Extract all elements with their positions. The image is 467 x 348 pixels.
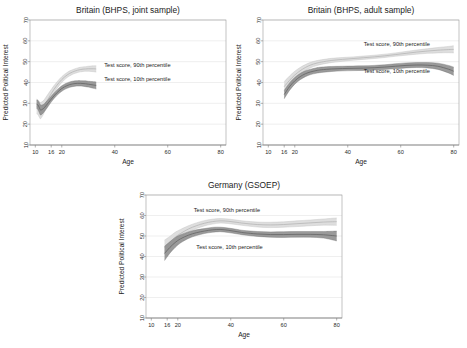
y-axis: 10203040506070Predicted Political Intere… [118, 192, 146, 321]
y-tick-label: 40 [139, 253, 145, 259]
x-tick-label: 10 [148, 322, 154, 328]
y-axis: 10203040506070Predicted Political Intere… [2, 17, 30, 148]
x-tick-label: 10 [265, 149, 271, 155]
series-label-90th-percentile: Test score, 90th percentile [364, 41, 430, 47]
y-tick-label: 10 [139, 315, 145, 321]
y-tick-label: 60 [256, 38, 262, 44]
y-tick-label: 70 [139, 192, 145, 198]
x-tick-label: 80 [218, 149, 224, 155]
y-tick-label: 40 [256, 79, 262, 85]
x-axis-title: Age [122, 158, 134, 166]
series-label-10th-percentile: Test score, 10th percentile [104, 76, 170, 82]
y-tick-label: 10 [23, 142, 29, 148]
x-tick-label: 80 [451, 149, 457, 155]
y-axis-title: Predicted Political Interest [235, 44, 242, 120]
chart-svg: Britain (BHPS, joint sample)102030405060… [0, 0, 234, 175]
y-tick-label: 50 [139, 233, 145, 239]
x-tick-label: 16 [48, 149, 54, 155]
panel-title: Britain (BHPS, joint sample) [76, 5, 180, 15]
y-tick-label: 40 [23, 79, 29, 85]
y-tick-label: 30 [23, 100, 29, 106]
series-label-10th-percentile: Test score, 10th percentile [364, 68, 430, 74]
y-tick-label: 60 [23, 38, 29, 44]
x-tick-label: 60 [398, 149, 404, 155]
y-tick-label: 50 [256, 59, 262, 65]
figure-container: Britain (BHPS, joint sample)102030405060… [0, 0, 467, 348]
series-label-10th-percentile: Test score, 10th percentile [196, 244, 262, 250]
x-tick-label: 20 [59, 149, 65, 155]
x-tick-label: 10 [32, 149, 38, 155]
x-axis-title: Age [238, 331, 250, 339]
y-tick-label: 20 [139, 294, 145, 300]
chart-svg: Britain (BHPS, adult sample)102030405060… [233, 0, 467, 175]
x-axis: 101620406080Age [263, 145, 459, 166]
x-axis: 101620406080Age [30, 145, 226, 166]
y-tick-label: 60 [139, 212, 145, 218]
chart-panel-britain-adult: Britain (BHPS, adult sample)102030405060… [233, 0, 467, 175]
x-tick-label: 20 [175, 322, 181, 328]
x-axis-title: Age [355, 158, 367, 166]
y-axis: 10203040506070Predicted Political Intere… [235, 17, 263, 148]
chart-svg: Germany (GSOEP)10203040506070Predicted P… [116, 175, 350, 348]
x-tick-label: 20 [292, 149, 298, 155]
x-tick-label: 40 [228, 322, 234, 328]
x-tick-label: 60 [165, 149, 171, 155]
y-tick-label: 20 [256, 121, 262, 127]
y-tick-label: 20 [23, 121, 29, 127]
y-tick-label: 50 [23, 59, 29, 65]
y-axis-title: Predicted Political Interest [118, 218, 125, 294]
panel-title: Britain (BHPS, adult sample) [308, 5, 415, 15]
chart-panel-britain-joint: Britain (BHPS, joint sample)102030405060… [0, 0, 234, 175]
x-tick-label: 16 [164, 322, 170, 328]
x-axis: 101620406080Age [146, 318, 342, 339]
y-tick-label: 30 [139, 274, 145, 280]
y-axis-title: Predicted Political Interest [2, 44, 9, 120]
panel-title: Germany (GSOEP) [208, 180, 280, 190]
x-tick-label: 40 [112, 149, 118, 155]
x-tick-label: 40 [345, 149, 351, 155]
y-tick-label: 70 [256, 17, 262, 23]
x-tick-label: 80 [334, 322, 340, 328]
series-label-90th-percentile: Test score, 90th percentile [194, 207, 260, 213]
y-tick-label: 30 [256, 100, 262, 106]
series-label-90th-percentile: Test score, 90th percentile [104, 62, 170, 68]
x-tick-label: 60 [281, 322, 287, 328]
chart-panel-germany: Germany (GSOEP)10203040506070Predicted P… [116, 175, 350, 348]
y-tick-label: 70 [23, 17, 29, 23]
x-tick-label: 16 [281, 149, 287, 155]
y-tick-label: 10 [256, 142, 262, 148]
